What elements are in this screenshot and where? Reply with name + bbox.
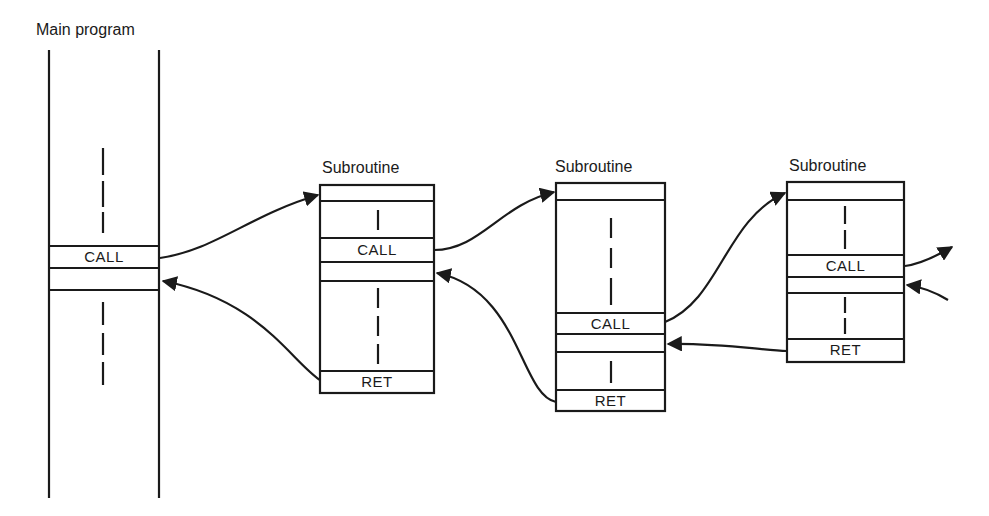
- subroutine-3-title: Subroutine: [789, 157, 866, 175]
- subroutine-2-ret-label: RET: [556, 392, 665, 409]
- main-program-column: [49, 50, 159, 498]
- main-call-label: CALL: [49, 248, 159, 265]
- subroutine-1-title: Subroutine: [322, 159, 399, 177]
- arrow-in-to-sub3: [907, 285, 948, 300]
- arrow-sub1-call-to-sub2: [434, 192, 554, 250]
- subroutine-2-title: Subroutine: [555, 158, 632, 176]
- arrow-sub2-ret-to-sub1: [437, 273, 556, 402]
- arrow-sub2-call-to-sub3: [665, 193, 785, 322]
- subroutine-1-call-label: CALL: [320, 241, 434, 258]
- arrow-sub3-ret-to-sub2: [668, 344, 787, 351]
- arrow-main-call-to-sub1: [160, 195, 318, 258]
- arrow-sub1-ret-to-main: [163, 281, 320, 380]
- subroutine-1-ret-label: RET: [320, 373, 434, 390]
- subroutine-3-call-label: CALL: [787, 257, 904, 274]
- subroutine-2-call-label: CALL: [556, 315, 665, 332]
- subroutine-3-ret-label: RET: [787, 341, 904, 358]
- subroutine-2-box: [556, 183, 665, 411]
- main-program-title: Main program: [36, 21, 135, 39]
- subroutine-1-box: [320, 185, 434, 393]
- arrow-sub3-call-out: [905, 247, 952, 266]
